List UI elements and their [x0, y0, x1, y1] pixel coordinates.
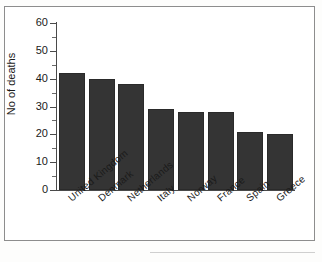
bar: [178, 112, 204, 190]
y-axis-major-tick: [50, 162, 56, 163]
y-axis-major-tick: [50, 23, 56, 24]
y-axis-minor-tick: [52, 65, 56, 66]
y-axis-tick-label: 60: [18, 17, 48, 28]
y-axis-minor-tick: [52, 93, 56, 94]
y-axis-major-tick: [50, 134, 56, 135]
y-axis-minor-tick: [52, 176, 56, 177]
y-axis-title: No of deaths: [5, 29, 17, 139]
scan-artifact-line: [150, 252, 315, 253]
plot-area: [57, 23, 295, 190]
y-axis-tick-label: 40: [18, 73, 48, 84]
y-axis-major-tick: [50, 107, 56, 108]
y-axis-tick-labels: 0102030405060: [12, 0, 48, 262]
y-axis-minor-tick: [52, 37, 56, 38]
y-axis-major-tick: [50, 79, 56, 80]
y-axis-tick-label: 0: [18, 184, 48, 195]
y-axis-major-tick: [50, 190, 56, 191]
y-axis-tick-label: 30: [18, 101, 48, 112]
y-axis-major-tick: [50, 51, 56, 52]
y-axis-tick-label: 20: [18, 128, 48, 139]
figure: 0102030405060 No of deaths United Kingdo…: [0, 0, 322, 262]
y-axis-tick-label: 10: [18, 156, 48, 167]
bar: [59, 73, 85, 190]
y-axis-minor-tick: [52, 148, 56, 149]
y-axis-tick-label: 50: [18, 45, 48, 56]
y-axis-minor-tick: [52, 120, 56, 121]
